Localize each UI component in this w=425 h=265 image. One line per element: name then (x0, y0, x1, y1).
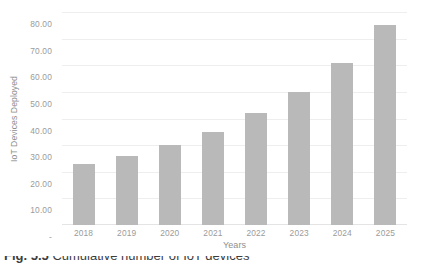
x-axis-tick-label: 2023 (290, 228, 309, 238)
x-axis-tick-label: 2024 (333, 228, 352, 238)
gridline (62, 145, 407, 146)
x-axis-tick-labels: 20182019202020212022202320242025 (62, 228, 407, 240)
x-axis-tick-label: 2018 (74, 228, 93, 238)
x-axis-line (62, 224, 407, 225)
gridline (62, 92, 407, 93)
y-axis-tick-label: 50.00 (30, 99, 52, 109)
x-axis-title-label: Years (223, 240, 246, 250)
x-axis-tick-label: 2025 (376, 228, 395, 238)
y-axis-tick-label: 80.00 (30, 19, 52, 29)
gridline (62, 119, 407, 120)
y-axis-tick-label: 30.00 (30, 152, 52, 162)
gridline (62, 172, 407, 173)
y-axis-tick-label: 70.00 (30, 46, 52, 56)
gridline (62, 12, 407, 13)
bar-chart-figure: IoT Devices Deployed -10.0020.0030.0040.… (0, 0, 425, 265)
y-axis-tick-label: 60.00 (30, 72, 52, 82)
y-axis-tick-label: 10.00 (30, 205, 52, 215)
x-axis-title: Years (62, 240, 407, 250)
bar (159, 145, 181, 225)
figure-caption: Fig. 5.5 Cumulative number of IoT device… (0, 256, 425, 265)
x-axis-tick-label: 2022 (246, 228, 265, 238)
x-axis-tick-label: 2021 (203, 228, 222, 238)
bar (245, 113, 267, 225)
gridline (62, 198, 407, 199)
bar (288, 92, 310, 225)
x-axis-tick-label: 2020 (160, 228, 179, 238)
y-axis-tick-label: 20.00 (30, 179, 52, 189)
bar (73, 164, 95, 225)
figure-caption-text: Fig. 5.5 Cumulative number of IoT device… (4, 256, 249, 263)
bar (374, 25, 396, 225)
plot-area (62, 12, 407, 225)
gridline (62, 65, 407, 66)
y-axis-tick-label: 40.00 (30, 126, 52, 136)
x-axis-tick-label: 2019 (117, 228, 136, 238)
y-axis-tick-labels: -10.0020.0030.0040.0050.0060.0070.0080.0… (0, 12, 58, 225)
bar (116, 156, 138, 225)
y-axis-tick-label: - (49, 232, 52, 242)
gridline (62, 39, 407, 40)
bar (331, 63, 353, 225)
bar (202, 132, 224, 225)
